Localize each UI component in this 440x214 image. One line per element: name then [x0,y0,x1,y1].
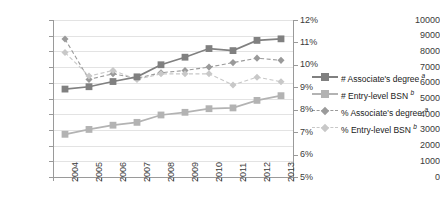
series-marker [158,112,165,119]
x-axis-tick-label: 2013 [286,162,296,182]
right-axis-tick-label: 9% [300,83,330,92]
series-marker [254,97,261,104]
series-marker [278,35,285,42]
left-axis-tick-label: 5000 [396,94,440,103]
series-marker [253,74,260,81]
series-marker [277,78,284,85]
series-marker [205,70,212,77]
right-axis-tick-label: 8% [300,105,330,114]
left-axis-tick-label: 8000 [396,47,440,56]
right-axis-tick-label: 6% [300,150,330,159]
series-marker [110,122,117,129]
x-axis-tick-label: 2009 [190,162,200,182]
x-axis-tick-label: 2007 [142,162,152,182]
legend-square-icon [321,73,329,81]
series-marker [278,92,285,99]
right-axis-tick-label: 12% [300,16,330,25]
left-axis-tick-label: 3000 [396,125,440,134]
x-axis-tick-label: 2005 [94,162,104,182]
series-marker [157,70,164,77]
right-axis-tick-label: 5% [300,173,330,182]
x-axis-tick-label: 2010 [214,162,224,182]
series-marker [206,45,213,52]
left-axis-tick-label: 10000 [396,16,440,25]
series-marker [230,105,237,112]
left-axis-tick-label: 9000 [396,31,440,40]
series-marker [182,109,189,116]
left-axis-tick-label: 6000 [396,78,440,87]
left-axis-tick-label: 7000 [396,63,440,72]
series-marker [134,73,141,80]
left-axis-tick-label: 4000 [396,110,440,119]
series-marker [86,126,93,133]
x-axis-tick-label: 2004 [70,162,80,182]
series-marker [205,64,212,71]
series-marker [110,78,117,85]
series-line [65,96,281,135]
chart-container: # Associate's degree a# Entry-level BSN … [0,0,440,214]
series-marker [158,61,165,68]
right-axis-tick-label: 11% [300,38,330,47]
series-marker [61,36,68,43]
series-marker [134,119,141,126]
right-axis-tick-label: 7% [300,128,330,137]
left-axis-tick-label: 1000 [396,157,440,166]
series-marker [230,47,237,54]
series-line [65,39,281,89]
right-axis-tick-label: 10% [300,60,330,69]
legend-swatch [312,72,338,82]
series-marker [229,59,236,66]
series-marker [277,57,284,64]
x-axis-tick-label: 2006 [118,162,128,182]
series-marker [62,86,69,93]
x-axis-tick-label: 2008 [166,162,176,182]
series-marker [206,105,213,112]
series-marker [253,55,260,62]
series-marker [86,83,93,90]
x-axis-tick-label: 2011 [238,163,248,182]
series-marker [254,37,261,44]
series-marker [182,54,189,61]
series-marker [62,131,69,138]
left-axis-tick-label: 2000 [396,141,440,150]
series-marker [229,82,236,89]
series-line [65,53,281,86]
left-axis-tick-label: 0 [396,173,440,182]
x-axis-tick-label: 2012 [262,162,272,182]
